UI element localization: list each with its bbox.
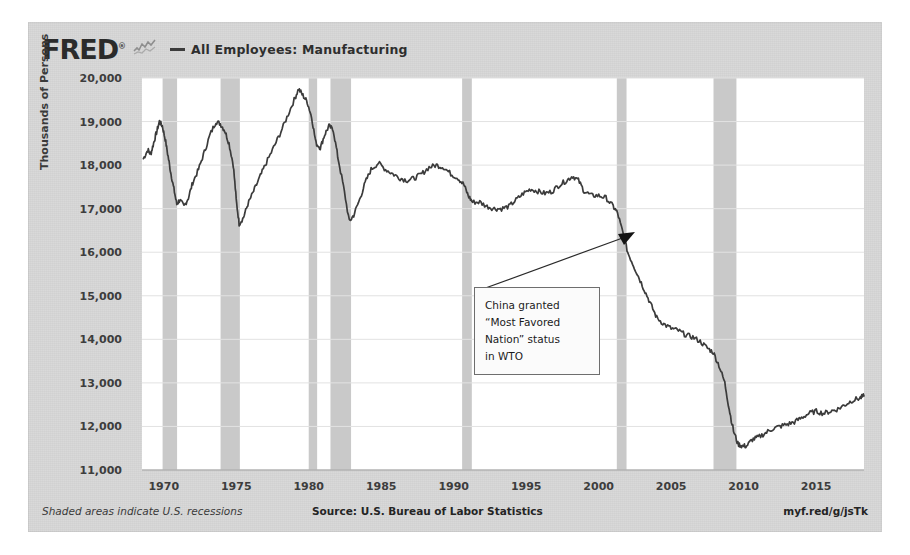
x-axis-tick-label: 1995 — [511, 480, 542, 493]
annotation-callout-text: China granted“Most FavoredNation” status… — [485, 297, 589, 365]
annotation-callout-box: China granted“Most FavoredNation” status… — [474, 287, 600, 375]
screenshot-root: FRED® All Employees: Manufacturing Thous… — [0, 0, 910, 555]
x-axis-tick-label: 2000 — [583, 480, 614, 493]
x-axis-tick-label: 2005 — [656, 480, 687, 493]
x-axis-tick-labels: 1970197519801985199019952000200520102015 — [28, 22, 882, 532]
x-axis-tick-label: 1975 — [221, 480, 252, 493]
x-axis-tick-label: 2015 — [801, 480, 832, 493]
fred-chart-card: FRED® All Employees: Manufacturing Thous… — [28, 22, 882, 532]
data-source-label: Source: U.S. Bureau of Labor Statistics — [312, 505, 543, 517]
permalink-label[interactable]: myf.red/g/jsTk — [783, 505, 868, 517]
x-axis-tick-label: 1980 — [293, 480, 324, 493]
recession-note: Shaded areas indicate U.S. recessions — [42, 505, 242, 517]
annotation-line: in WTO — [485, 348, 589, 365]
x-axis-tick-label: 1990 — [438, 480, 469, 493]
chart-footer: Shaded areas indicate U.S. recessions So… — [28, 496, 882, 532]
annotation-line: Nation” status — [485, 331, 589, 348]
x-axis-tick-label: 2010 — [728, 480, 759, 493]
annotation-line: “Most Favored — [485, 314, 589, 331]
x-axis-tick-label: 1985 — [366, 480, 397, 493]
x-axis-tick-label: 1970 — [148, 480, 179, 493]
annotation-line: China granted — [485, 297, 589, 314]
